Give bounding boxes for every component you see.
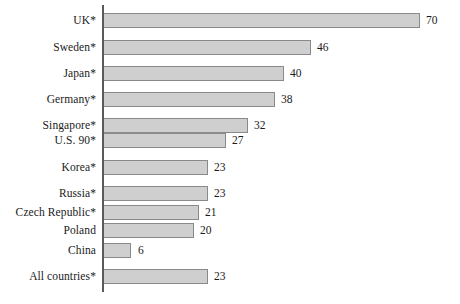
bar-value-label: 23	[214, 186, 226, 201]
bar-chart: UK* 70 Sweden* 46 Japan* 40 Germany* 38 …	[0, 0, 460, 304]
bar-rect	[104, 160, 208, 175]
bar-row: Japan* 40	[0, 66, 460, 81]
bar-rect	[104, 269, 208, 284]
category-label: Korea*	[0, 160, 96, 175]
bar-row: Korea* 23	[0, 160, 460, 175]
bar-value-label: 23	[214, 160, 226, 175]
category-label: Czech Republic*	[0, 205, 96, 220]
category-label: Singapore*	[0, 118, 96, 133]
bar-value-label: 46	[317, 40, 329, 55]
bar-row: Sweden* 46	[0, 40, 460, 55]
bar-rect	[104, 133, 226, 148]
bar-rect	[104, 205, 199, 220]
category-label: All countries*	[0, 269, 96, 284]
bar-row: Singapore* 32	[0, 118, 460, 133]
bar-row: China 6	[0, 243, 460, 258]
bar-rect	[104, 223, 194, 238]
bar-value-label: 40	[290, 66, 302, 81]
category-label: UK*	[0, 13, 96, 28]
bar-rect	[104, 66, 284, 81]
bar-rect	[104, 40, 311, 55]
category-label: Germany*	[0, 92, 96, 107]
bar-row: All countries* 23	[0, 269, 460, 284]
bar-value-label: 6	[138, 243, 144, 258]
bar-row: Germany* 38	[0, 92, 460, 107]
bar-value-label: 32	[254, 118, 266, 133]
category-label: Russia*	[0, 186, 96, 201]
bar-value-label: 70	[426, 13, 438, 28]
category-label: China	[0, 243, 96, 258]
category-label: Sweden*	[0, 40, 96, 55]
bar-row: UK* 70	[0, 13, 460, 28]
bar-rect	[104, 243, 131, 258]
category-label: Japan*	[0, 66, 96, 81]
bar-rect	[104, 118, 248, 133]
category-label: Poland	[0, 223, 96, 238]
bar-value-label: 38	[281, 92, 293, 107]
bar-row: Poland 20	[0, 223, 460, 238]
bar-rect	[104, 13, 420, 28]
bar-value-label: 21	[205, 205, 217, 220]
bar-value-label: 23	[214, 269, 226, 284]
bar-rect	[104, 92, 275, 107]
bar-row: U.S. 90* 27	[0, 133, 460, 148]
bar-row: Russia* 23	[0, 186, 460, 201]
category-label: U.S. 90*	[0, 133, 96, 148]
bar-row: Czech Republic* 21	[0, 205, 460, 220]
bar-value-label: 20	[200, 223, 212, 238]
bar-rect	[104, 186, 208, 201]
bar-value-label: 27	[232, 133, 244, 148]
